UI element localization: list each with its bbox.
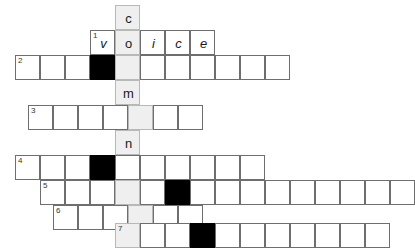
crossword-cell[interactable]: [315, 180, 340, 205]
crossword-cell[interactable]: [115, 180, 140, 205]
crossword-cell[interactable]: [215, 223, 240, 248]
crossword-cell[interactable]: [215, 55, 240, 80]
cell-number: 2: [18, 56, 22, 66]
crossword-cell[interactable]: [78, 205, 103, 230]
crossword-cell[interactable]: 3: [28, 105, 53, 130]
crossword-cell[interactable]: [215, 155, 240, 180]
crossword-cell[interactable]: 5: [40, 180, 65, 205]
crossword-cell[interactable]: [65, 155, 90, 180]
crossword-cell[interactable]: [240, 223, 265, 248]
crossword-block-cell: [90, 155, 115, 180]
crossword-block-cell: [90, 55, 115, 80]
crossword-cell[interactable]: [290, 223, 315, 248]
cell-letter: m: [116, 81, 141, 106]
cell-number: 3: [31, 106, 35, 116]
crossword-cell[interactable]: [53, 105, 78, 130]
crossword-cell[interactable]: o: [115, 30, 140, 55]
cell-number: 7: [118, 224, 122, 234]
crossword-cell[interactable]: [65, 180, 90, 205]
crossword-cell[interactable]: [153, 105, 178, 130]
crossword-cell[interactable]: [365, 223, 390, 248]
crossword-cell[interactable]: 7: [115, 223, 140, 248]
crossword-cell[interactable]: i: [140, 30, 165, 55]
cell-letter: o: [116, 31, 141, 56]
crossword-cell[interactable]: [165, 223, 190, 248]
cell-number: 6: [56, 206, 60, 216]
crossword-cell[interactable]: [140, 55, 165, 80]
crossword-cell[interactable]: [140, 155, 165, 180]
cell-number: 4: [18, 156, 22, 166]
crossword-cell[interactable]: [40, 155, 65, 180]
crossword-cell[interactable]: [78, 105, 103, 130]
crossword-block-cell: [190, 223, 215, 248]
cell-letter: e: [191, 31, 216, 56]
crossword-cell[interactable]: 4: [15, 155, 40, 180]
crossword-cell[interactable]: [140, 223, 165, 248]
crossword-cell[interactable]: [190, 55, 215, 80]
crossword-cell[interactable]: [265, 180, 290, 205]
crossword-cell[interactable]: [128, 105, 153, 130]
crossword-cell[interactable]: [178, 105, 203, 130]
crossword-cell[interactable]: [265, 223, 290, 248]
crossword-cell[interactable]: [40, 55, 65, 80]
crossword-cell[interactable]: e: [190, 30, 215, 55]
crossword-cell[interactable]: [90, 180, 115, 205]
crossword-cell[interactable]: c: [115, 5, 140, 30]
crossword-cell[interactable]: [240, 155, 265, 180]
crossword-cell[interactable]: [103, 105, 128, 130]
crossword-cell[interactable]: [240, 55, 265, 80]
cell-letter: v: [91, 31, 116, 56]
crossword-cell[interactable]: 1v: [90, 30, 115, 55]
crossword-cell[interactable]: [115, 155, 140, 180]
crossword-cell[interactable]: [340, 180, 365, 205]
crossword-cell[interactable]: [65, 55, 90, 80]
cell-letter: c: [166, 31, 191, 56]
crossword-cell[interactable]: [165, 55, 190, 80]
crossword-cell[interactable]: [340, 223, 365, 248]
crossword-cell[interactable]: 6: [53, 205, 78, 230]
cell-letter: n: [116, 131, 141, 156]
crossword-cell[interactable]: [290, 180, 315, 205]
crossword-cell[interactable]: [165, 155, 190, 180]
crossword-cell[interactable]: n: [115, 130, 140, 155]
crossword-cell[interactable]: [365, 180, 390, 205]
crossword-cell[interactable]: c: [165, 30, 190, 55]
crossword-cell[interactable]: [315, 223, 340, 248]
cell-letter: c: [116, 6, 141, 31]
crossword-cell[interactable]: [265, 55, 290, 80]
crossword-cell[interactable]: [390, 180, 415, 205]
crossword-cell[interactable]: [240, 180, 265, 205]
crossword-cell[interactable]: m: [115, 80, 140, 105]
crossword-block-cell: [165, 180, 190, 205]
crossword-cell[interactable]: [140, 180, 165, 205]
cell-letter: i: [141, 31, 166, 56]
crossword-cell[interactable]: [190, 180, 215, 205]
crossword-cell[interactable]: [215, 180, 240, 205]
crossword-cell[interactable]: [190, 155, 215, 180]
cell-number: 5: [43, 181, 47, 191]
crossword-cell[interactable]: [115, 55, 140, 80]
crossword-cell[interactable]: 2: [15, 55, 40, 80]
